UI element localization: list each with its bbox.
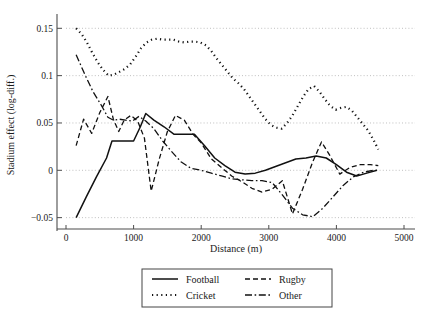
stadium-effect-line-chart: 010002000300040005000 −0.0500.050.10.15 … (0, 0, 431, 315)
y-tick-label: 0 (48, 166, 53, 176)
chart-background (0, 0, 431, 315)
x-tick-label: 0 (64, 233, 69, 243)
y-tick-label: 0.1 (41, 71, 53, 81)
x-axis-title: Distance (m) (210, 243, 262, 255)
x-tick-label: 4000 (327, 233, 346, 243)
y-tick-label: −0.05 (31, 213, 53, 223)
x-tick-label: 2000 (192, 233, 211, 243)
x-tick-label: 1000 (124, 233, 143, 243)
x-tick-label: 3000 (259, 233, 278, 243)
legend-label-other: Other (279, 290, 302, 301)
legend-label-rugby: Rugby (279, 274, 306, 285)
legend-label-cricket: Cricket (186, 290, 216, 301)
chart-legend: FootballRugbyCricketOther (142, 269, 332, 307)
y-tick-label: 0.05 (36, 118, 53, 128)
y-tick-label: 0.15 (36, 24, 53, 34)
y-axis-title: Stadium effect (log-diff.) (5, 75, 17, 175)
x-tick-label: 5000 (395, 233, 414, 243)
legend-label-football: Football (186, 274, 220, 285)
